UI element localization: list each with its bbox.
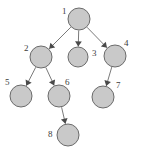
node-1[interactable] [68,8,90,30]
node-label-8: 8 [48,130,53,139]
node-7[interactable] [92,86,114,108]
arrowhead-1-3 [75,41,82,46]
node-label-4: 4 [124,39,129,48]
arrowhead-6-8 [61,118,68,124]
graph-svg [0,0,144,151]
node-3[interactable] [68,47,88,67]
node-label-5: 5 [5,78,10,87]
node-8[interactable] [57,124,79,146]
node-2[interactable] [30,46,52,68]
node-label-6: 6 [65,78,70,87]
edges-layer [26,27,112,124]
node-6[interactable] [48,85,70,107]
diagram-canvas: 12345678 [0,0,144,151]
node-label-1: 1 [62,7,67,16]
node-label-2: 2 [24,44,29,53]
node-4[interactable] [104,45,126,67]
node-label-7: 7 [116,81,121,90]
node-5[interactable] [10,85,32,107]
node-label-3: 3 [92,49,97,58]
